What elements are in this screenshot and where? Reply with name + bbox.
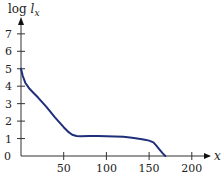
y-tick-label: 2 — [5, 115, 12, 128]
y-tick-label: 5 — [5, 63, 12, 76]
y-axis-label-sub: x — [34, 8, 39, 18]
y-tick-label: 7 — [5, 28, 12, 41]
survivorship-chart: 50100150200 01234567 x log lx — [0, 0, 222, 182]
y-axis-label-prefix: log — [8, 2, 31, 16]
y-tick-label: 3 — [5, 98, 12, 111]
y-ticks: 01234567 — [4, 28, 25, 163]
y-tick-label: 0 — [4, 150, 11, 163]
x-tick-label: 200 — [181, 162, 202, 175]
x-tick-label: 150 — [139, 162, 160, 175]
x-tick-label: 50 — [57, 162, 71, 175]
x-axis-arrow-icon — [204, 153, 211, 159]
x-axis-label: x — [214, 149, 221, 163]
series-line — [21, 69, 165, 156]
y-tick-label: 6 — [5, 45, 12, 58]
y-axis-arrow-icon — [18, 17, 24, 25]
series-group — [21, 69, 165, 156]
y-tick-label: 4 — [5, 80, 12, 93]
y-axis-label: log lx — [8, 2, 39, 18]
x-ticks: 50100150200 — [57, 152, 203, 175]
y-tick-label: 1 — [5, 133, 12, 146]
axes — [18, 17, 211, 159]
x-tick-label: 100 — [96, 162, 117, 175]
